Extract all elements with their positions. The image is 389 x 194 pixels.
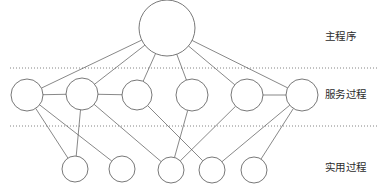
- edge-S1-U0: [76, 110, 80, 156]
- process-node-M0: [139, 0, 195, 56]
- edge-S0-U0: [36, 108, 68, 158]
- process-node-S2: [122, 80, 152, 110]
- edge-M0-S4: [188, 46, 234, 85]
- tier-label-utility-process: 实用过程: [325, 162, 367, 173]
- process-node-S5: [286, 79, 318, 111]
- node-group: [11, 0, 318, 183]
- edge-M0-S3: [177, 54, 187, 80]
- process-hierarchy-figure: 主程序 服务过程 实用过程: [0, 0, 389, 194]
- edge-M0-S2: [143, 54, 155, 82]
- process-node-U4: [241, 157, 267, 183]
- edge-S2-U3: [148, 106, 203, 161]
- process-node-S1: [66, 78, 98, 110]
- process-node-U1: [109, 156, 135, 182]
- process-node-U0: [62, 156, 88, 182]
- process-node-U3: [199, 157, 225, 183]
- process-node-S3: [176, 79, 208, 111]
- edge-S1-U2: [94, 104, 161, 161]
- process-node-U2: [158, 157, 184, 183]
- tier-label-main-program: 主程序: [325, 31, 356, 42]
- edge-S0-U1: [40, 105, 112, 161]
- edge-S5-U3: [222, 105, 290, 161]
- process-node-S4: [231, 79, 263, 111]
- edge-S4-U2: [180, 106, 235, 161]
- tier-label-service-process: 服务过程: [325, 89, 367, 100]
- process-node-S0: [11, 79, 43, 111]
- edge-S3-U2: [175, 110, 188, 157]
- edge-M0-S1: [95, 45, 145, 84]
